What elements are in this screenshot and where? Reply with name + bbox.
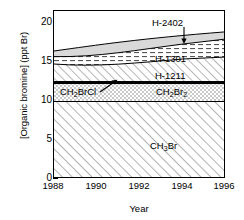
y-axis-title: [Organic bromine] (ppt Br) — [18, 1, 29, 171]
annotation-ch3br-sub: 3 — [164, 145, 168, 152]
annotation-ch2brcl-part2: BrCl — [78, 86, 96, 97]
annotation-h2402: H-2402 — [152, 17, 183, 28]
y-tick-label-20: 20 — [32, 16, 52, 27]
annotation-ch3br-part1: CH — [150, 140, 164, 151]
x-tick-label-1990: 1990 — [76, 180, 116, 191]
annotation-ch3br: CH3Br — [150, 140, 177, 151]
x-tick-label-1992: 1992 — [119, 180, 159, 191]
y-tick-label-10: 10 — [32, 94, 52, 105]
band-ch2brcl — [54, 81, 225, 84]
annotation-ch2br2-sub1: 2 — [170, 91, 174, 98]
y-tick-label-5: 5 — [32, 133, 52, 144]
x-tick-label-1988: 1988 — [33, 180, 73, 191]
annotation-ch2br2-part1: CH — [156, 86, 170, 97]
band-ch3br — [54, 102, 225, 179]
annotation-ch2br2-part2: Br — [174, 86, 184, 97]
annotation-h1301: H-1301 — [155, 53, 186, 64]
annotation-ch3br-part2: Br — [168, 140, 178, 151]
annotation-ch2brcl: CH2BrCl — [60, 86, 96, 97]
annotation-ch2brcl-sub: 2 — [74, 91, 78, 98]
annotation-h1211: H-1211 — [155, 70, 185, 81]
annotation-ch2br2: CH2Br2 — [156, 86, 187, 97]
x-tick-label-1996: 1996 — [204, 180, 244, 191]
y-tick-label-15: 15 — [32, 55, 52, 66]
y-tick-mark-0 — [53, 178, 58, 179]
x-axis-title: Year — [53, 203, 225, 214]
chart-figure: [Organic bromine] (ppt Br) 20 15 10 5 0 … — [0, 0, 244, 220]
x-tick-label-1994: 1994 — [162, 180, 202, 191]
annotation-ch2br2-sub2: 2 — [183, 91, 187, 98]
annotation-ch2brcl-part1: CH — [60, 86, 74, 97]
